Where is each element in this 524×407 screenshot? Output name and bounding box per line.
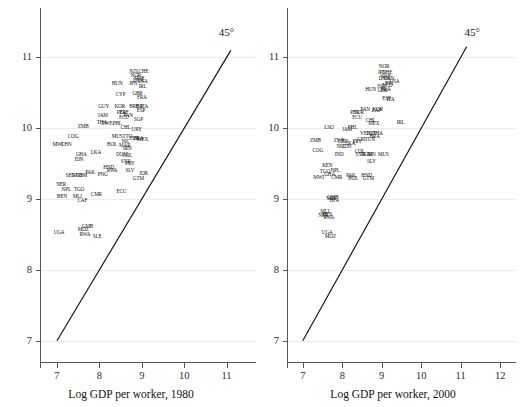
data-point-label: CHE [138, 69, 148, 74]
data-point-label: CAN [384, 76, 395, 81]
data-point-label: NPL [330, 168, 339, 173]
data-point-label: NOR [379, 65, 390, 70]
data-point-label: HND [103, 165, 114, 170]
data-point-label: ZWE [102, 121, 113, 126]
data-point-label: SLV [125, 168, 134, 173]
data-point-label: UGA [54, 230, 65, 235]
data-point-label: MWI [313, 175, 324, 180]
data-point-label: NPL [62, 187, 71, 192]
data-point-label: COG [313, 148, 324, 153]
data-point-label: PAN [360, 107, 369, 112]
data-point-label: GMB [82, 225, 93, 230]
data-point-label: FRA [137, 95, 147, 100]
data-point-label: RWA [80, 233, 91, 238]
data-point-label: GUY [98, 104, 109, 109]
data-point-label: MOZ [325, 234, 336, 239]
data-point-label: IRL [397, 120, 405, 125]
data-point-label: MEX [137, 138, 148, 143]
data-point-label: PHL [348, 126, 357, 131]
data-point-label: CHL [366, 119, 376, 124]
data-point-label: ZAF [119, 110, 128, 115]
data-point-label: TGO [74, 187, 84, 192]
data-point-label: CHE [382, 70, 392, 75]
angle-annotation: 45° [465, 26, 480, 38]
data-point-label: IRL [139, 85, 147, 90]
data-point-label: HUN [112, 82, 123, 87]
data-point-label: ZMB [78, 124, 89, 129]
data-point-label: NZL [129, 69, 139, 74]
data-point-label: BOL [348, 177, 358, 182]
data-point-label: ZMB [310, 138, 321, 143]
data-point-label: SLV [367, 160, 376, 165]
data-point-label: BFA [330, 198, 339, 203]
data-point-label: ECU [352, 116, 362, 121]
data-point-label: URY [132, 128, 142, 133]
angle-annotation: 45° [219, 26, 234, 38]
chart-panel-2000: 7891011789101112Log GDP per worker, 2000… [262, 0, 524, 407]
data-point-label: SGP [134, 117, 143, 122]
data-point-label: GHA [76, 153, 87, 158]
data-point-label: CYP [116, 92, 126, 97]
data-point-label: CHL [121, 126, 131, 131]
data-point-label: CMR [331, 175, 342, 180]
data-point-label: LSO [324, 126, 333, 131]
data-point-label: CHN [61, 143, 72, 148]
plot-area-1980: 78910117891011Log GDP per worker, 198045… [0, 0, 262, 407]
data-point-label: THA [373, 131, 383, 136]
data-point-label: ECU [116, 189, 126, 194]
data-point-label: COG [68, 134, 79, 139]
data-point-label: PRY [125, 161, 134, 166]
data-point-label: GTM [133, 176, 144, 181]
data-point-label: GTM [363, 177, 374, 182]
data-point-label: PAK [85, 170, 94, 175]
data-point-label: SLE [93, 235, 102, 240]
reference-line-45 [0, 0, 262, 407]
data-point-label: CMR [91, 192, 102, 197]
data-point-label: ITA [387, 97, 395, 102]
data-point-label: HUN [365, 87, 376, 92]
data-point-label: JAM [98, 113, 108, 118]
data-point-label: IRN [367, 153, 375, 158]
chart-panel-1980: 78910117891011Log GDP per worker, 198045… [0, 0, 262, 407]
data-point-label: RWA [323, 215, 334, 220]
data-point-label: KOR [373, 107, 384, 112]
data-point-label: BOL [107, 142, 117, 147]
data-point-label: KEN [322, 163, 332, 168]
plot-area-2000: 7891011789101112Log GDP per worker, 2000… [262, 0, 524, 407]
data-point-label: BEN [57, 194, 67, 199]
data-point-label: ESP [137, 108, 146, 113]
data-point-label: MUS [378, 153, 389, 158]
data-point-label: IND [335, 153, 344, 158]
data-point-label: LKA [91, 150, 101, 155]
data-point-label: MUS [112, 134, 123, 139]
reference-line-45 [262, 0, 524, 407]
data-point-label: CAF [78, 198, 88, 203]
data-point-label: IDN [75, 158, 84, 163]
